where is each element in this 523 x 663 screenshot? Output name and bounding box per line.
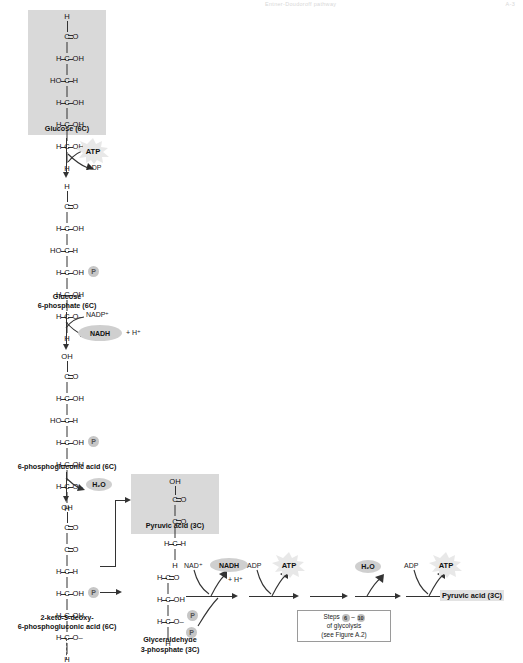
phosphate-icon-pg: P [88,436,99,447]
steps-dash: – [351,613,355,620]
atp-label-3: ATP [429,552,463,578]
water-produce-curve-2 [365,574,387,598]
bond-vertical [67,448,68,459]
nad-label: NAD⁺ [184,562,203,570]
label-final-pyruvic-acid: Pyruvic acid (3C) [440,590,504,601]
bond-vertical [168,583,169,594]
pg-top-atom: OH [27,352,107,361]
diagram-page: Entner-Doudoroff pathway A-3 H C O H C O… [0,0,523,663]
bond-vertical [67,599,68,610]
atom-right: O [73,372,79,381]
label-g3p-line2: 3-phosphate (3C) [122,645,218,655]
kdpg-bottom-atom: H [27,655,107,663]
nadh-plus-h-label: + H⁺ [228,576,243,584]
kdpg-unit-1: C O [27,523,107,545]
bond-vertical [67,234,68,245]
bond-vertical [67,212,68,223]
chain-arrow-3-head [342,593,348,599]
atom-right: OH [73,54,84,63]
bond-vertical [175,549,176,560]
pg-unit-1: C O [27,372,107,394]
label-6-phosphogluconic-acid: 6-phosphogluconic acid (6C) [2,462,132,472]
kdpg-top-atom: OH [27,503,107,512]
chain-arrow-4-head [395,593,401,599]
bond-vertical [168,605,169,616]
atom-right: O [181,495,187,504]
phosphate-icon-chain-in: P [186,627,197,638]
step-badge-to: 10 [357,614,365,622]
branch-to-g3p-arrow [116,589,122,595]
kdpg-unit-6: H C O– [27,633,107,655]
phosphate-icon-kdpg: P [88,587,99,598]
adp-label-1: ADP [87,164,101,171]
chain-arrow-2-head [293,593,299,599]
atom-right: OH [73,589,84,598]
atom-right: H [73,567,78,576]
g6p-unit-2: H C OH [27,224,107,246]
atom-right: OH [73,394,84,403]
atom-right: O– [73,633,83,642]
glucose-unit-3: HO C H [27,76,107,98]
label-kdpg-line2: 6-phosphogluconic acid (6C) [2,622,132,632]
atom-right: H [73,76,78,85]
bond-vertical [67,404,68,415]
atp-burst-3: ATP [429,552,463,578]
pyr-unit-1: C O [135,495,215,517]
atp-label-1: ATP [76,138,110,164]
atom-right: OH [73,268,84,277]
atom-carbon: C [64,202,69,211]
phosphate-in-curve [192,596,222,630]
atom-right: OH [73,224,84,233]
atom-right: OH [174,595,185,604]
glucose-unit-4: H C OH [27,98,107,120]
pg-unit-2: H C OH [27,394,107,416]
water-oval-1: H₂O [86,478,112,491]
bond-vertical [67,278,68,289]
arrow-pg-to-kdpg-head [63,496,69,502]
running-title: Entner-Doudoroff pathway [265,1,336,7]
nadp-label: NADP⁺ [86,311,109,319]
bond-vertical [67,108,68,119]
nadph-plus-h-label: + H⁺ [126,329,141,337]
g6p-top-atom: H [27,182,107,191]
atom-left: HO [50,76,61,85]
atp-burst-2: ATP [272,552,306,578]
atom-carbon: C [64,523,69,532]
atom-right: OH [73,98,84,107]
nadh-oval: NADH [210,558,248,572]
adp-label-3: ADP [404,562,418,569]
atom-right: OH [73,438,84,447]
atom-right: O [73,202,79,211]
atom-carbon: C [165,573,170,582]
steps-line-2: of glycolysis [302,622,386,631]
atom-right: O [73,545,79,554]
atom-carbon: C [172,495,177,504]
bond-vertical [67,64,68,75]
page-number: A-3 [506,1,515,7]
phosphate-icon-g6p: P [88,266,99,277]
atom-right: O [73,32,79,41]
bond-vertical [67,555,68,566]
atom-carbon: C [64,545,69,554]
nadph-oval: NADH [78,325,122,341]
label-glucose-6-phosphate-line2: 6-phosphate (6C) [20,301,114,311]
split-branch-horizontal-upper [100,566,116,567]
bond-vertical [175,505,176,516]
pyr-unit-3: H C H [135,539,215,561]
molecule-2-keto-3-deoxy-6-phosphogluconic-acid: OH C O C O H C H H C OH [27,503,107,663]
glucose-unit-2: H C OH [27,54,107,76]
steps-of-glycolysis-note: Steps 6 – 10 of glycolysis (see Figure A… [297,610,391,642]
pyr-top-atom: OH [135,477,215,486]
g6p-unit-1: C O [27,202,107,224]
atom-right: H [181,539,186,548]
g6p-unit-3: HO C H [27,246,107,268]
atom-right: O– [174,617,184,626]
atom-right: O [73,523,79,532]
running-header: Entner-Doudoroff pathway A-3 [265,1,515,7]
bond-vertical [67,533,68,544]
glucose-unit-1: C O [27,32,107,54]
nadh-produce-curve [205,570,231,598]
glucose-top-atom: H [27,12,107,21]
adp-label-2: ADP [247,562,261,569]
steps-line-1: Steps 6 – 10 [302,613,386,622]
